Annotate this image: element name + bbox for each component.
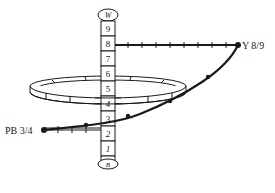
endpoint-top-dot (235, 42, 241, 48)
step-9: 9 (106, 24, 111, 34)
munsell-diagram: W 9 8 7 6 5 4 3 2 1 B (0, 0, 275, 193)
step-4: 4 (106, 99, 111, 109)
step-6: 6 (106, 69, 111, 79)
step-8: 8 (106, 39, 111, 49)
label-bottom-endpoint: PB 3/4 (5, 125, 33, 136)
label-b: B (106, 161, 111, 169)
chroma-scale-top (115, 42, 238, 48)
step-5: 5 (106, 84, 111, 94)
step-2: 2 (106, 129, 111, 139)
endpoint-bottom-dot (41, 127, 47, 133)
step-1: 1 (106, 144, 111, 154)
step-7: 7 (106, 54, 111, 64)
label-top-endpoint: Y 8/9 (242, 40, 264, 51)
